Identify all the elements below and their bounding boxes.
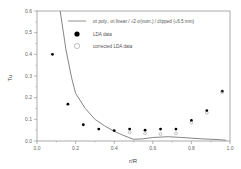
plot-frame xyxy=(37,11,230,141)
corrected-lda-data-point xyxy=(128,131,131,134)
lda-data-point xyxy=(159,128,162,131)
x-axis: 0.00.20.40.60.81.0 xyxy=(34,141,234,151)
lda-data-point xyxy=(82,123,85,126)
x-tick-label: 0.0 xyxy=(34,145,41,151)
y-tick-label: 0.2 xyxy=(25,94,32,100)
x-tick-label: 0.2 xyxy=(72,145,79,151)
corrected-lda-data-point xyxy=(144,132,147,135)
x-axis-label: r/R xyxy=(129,158,138,164)
lda-data-point xyxy=(175,128,178,131)
lda-data-point xyxy=(66,103,69,106)
y-tick-label: 0.1 xyxy=(25,116,32,122)
y-tick-label: 0.3 xyxy=(25,73,32,79)
y-tick-label: 0.6 xyxy=(25,8,32,14)
legend-open-label: corrected LDA data xyxy=(93,44,133,49)
series-layer xyxy=(51,11,226,140)
y-tick-label: 0.4 xyxy=(25,51,32,57)
y-axis: 0.00.10.20.30.40.50.6 xyxy=(25,8,37,144)
y-axis-label: Tu xyxy=(7,75,13,82)
legend-filled-marker xyxy=(74,31,79,36)
chart: 0.00.10.20.30.40.50.6 0.00.20.40.60.81.0… xyxy=(0,0,241,169)
model-curve xyxy=(60,11,226,140)
y-tick-label: 0.5 xyxy=(25,29,32,35)
legend-open-marker xyxy=(74,43,79,48)
lda-data-point xyxy=(113,129,116,132)
lda-data-point xyxy=(128,128,131,131)
lda-data-point xyxy=(51,53,54,56)
lda-data-point xyxy=(144,129,147,132)
x-tick-label: 1.0 xyxy=(227,145,234,151)
lda-data-point xyxy=(97,128,100,131)
legend-line-label: σt poly., σt linear / √2·σ(num.) / clipp… xyxy=(93,19,194,24)
x-tick-label: 0.6 xyxy=(149,145,156,151)
corrected-lda-data-point xyxy=(175,132,178,135)
x-tick-label: 0.4 xyxy=(111,145,118,151)
y-tick-label: 0.0 xyxy=(25,138,32,144)
x-tick-label: 0.8 xyxy=(188,145,195,151)
corrected-lda-data-point xyxy=(159,133,162,136)
legend-filled-label: LDA data xyxy=(93,32,112,37)
legend: σt poly., σt linear / √2·σ(num.) / clipp… xyxy=(68,19,194,49)
